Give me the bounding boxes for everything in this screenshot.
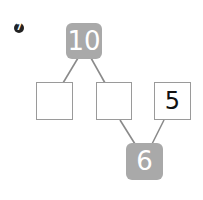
problem-number-badge: 7 — [14, 23, 24, 33]
top-node: 10 — [66, 23, 102, 59]
answer-box-left[interactable] — [36, 82, 73, 120]
given-box-right: 5 — [154, 82, 191, 120]
bottom-node: 6 — [126, 143, 163, 180]
answer-box-middle[interactable] — [96, 82, 132, 120]
